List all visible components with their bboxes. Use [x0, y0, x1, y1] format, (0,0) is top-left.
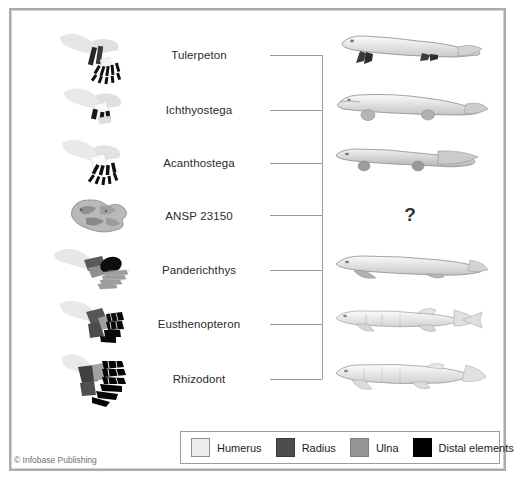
rhizodont-body-icon: [330, 353, 490, 405]
table-row: Ichthyostega: [0, 84, 521, 136]
taxon-label: Panderichthys: [140, 264, 258, 276]
rhizodont-fin-fossil-icon: [48, 349, 148, 411]
legend-swatch-ulna: [350, 438, 369, 457]
legend-item-distal-elements: Distal elements: [413, 438, 514, 457]
legend-label: Ulna: [376, 442, 399, 454]
legend-swatch-humerus: [191, 438, 210, 457]
legend-label: Humerus: [217, 442, 262, 454]
copyright-notice: © Infobase Publishing: [14, 455, 97, 465]
taxon-label: Tulerpeton: [140, 49, 258, 61]
table-row: ANSP 23150 ?: [0, 190, 521, 242]
taxon-label: Ichthyostega: [140, 104, 258, 116]
legend-swatch-distal-elements: [413, 438, 432, 457]
taxon-label: ANSP 23150: [140, 210, 258, 222]
table-row: Tulerpeton: [0, 29, 521, 81]
legend-item-ulna: Ulna: [350, 438, 399, 457]
taxa-rows: Tulerpeton: [0, 0, 521, 487]
eusthenopteron-body-icon: [330, 300, 490, 352]
table-row: Rhizodont: [0, 353, 521, 405]
table-row: Acanthostega: [0, 137, 521, 189]
legend-label: Distal elements: [439, 442, 514, 454]
legend: Humerus Radius Ulna Distal elements: [180, 431, 500, 464]
panderichthys-fin-fossil-icon: [48, 240, 148, 302]
legend-label: Radius: [302, 442, 336, 454]
tulerpeton-body-icon: [330, 25, 490, 77]
table-row: Eusthenopteron: [0, 298, 521, 350]
acanthostega-body-icon: [330, 139, 490, 191]
eusthenopteron-fin-fossil-icon: [48, 294, 148, 356]
panderichthys-body-icon: [330, 246, 490, 298]
figure-root: Tulerpeton: [0, 0, 521, 487]
acanthostega-limb-fossil-icon: [48, 133, 148, 195]
taxon-label: Eusthenopteron: [140, 318, 258, 330]
taxon-label: Rhizodont: [140, 373, 258, 385]
legend-item-radius: Radius: [276, 438, 336, 457]
ichthyostega-body-icon: [330, 82, 490, 134]
table-row: Panderichthys: [0, 244, 521, 296]
legend-item-humerus: Humerus: [191, 438, 262, 457]
unknown-organism-marker: ?: [330, 204, 490, 226]
taxon-label: Acanthostega: [140, 157, 258, 169]
legend-swatch-radius: [276, 438, 295, 457]
